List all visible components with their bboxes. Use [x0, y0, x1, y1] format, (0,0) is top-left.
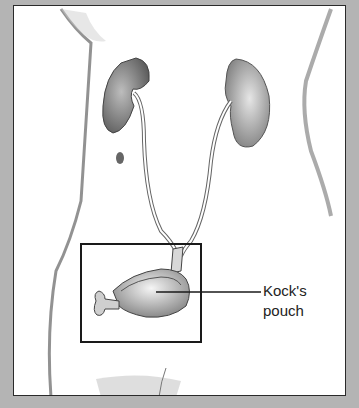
- torso-outline-right: [304, 9, 331, 216]
- diagram-panel: Kock's pouch: [13, 5, 346, 396]
- label-line-1: Kock's: [263, 281, 307, 301]
- adrenal-spot: [116, 152, 124, 164]
- label-kocks-pouch: Kock's pouch: [263, 281, 307, 321]
- label-line-2: pouch: [263, 301, 307, 321]
- torso-outline-left: [49, 9, 91, 396]
- anatomy-illustration: [14, 6, 346, 396]
- left-ureter: [134, 93, 176, 251]
- right-ureter: [181, 101, 231, 256]
- kock-pouch: [113, 269, 190, 317]
